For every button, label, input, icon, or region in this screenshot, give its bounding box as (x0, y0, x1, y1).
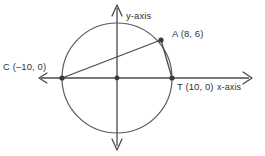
x-axis-label: x-axis (217, 83, 241, 92)
point-a (158, 37, 163, 42)
point-a-label: A (8, 6) (172, 29, 203, 39)
y-axis-label: y-axis (126, 11, 151, 21)
point-origin (115, 76, 120, 81)
point-t-label: T (10, 0) (177, 82, 214, 92)
point-c (59, 75, 64, 80)
figure-canvas (0, 0, 265, 156)
geometry-figure: y-axis A (8, 6) C (–10, 0) T (10, 0) x-a… (0, 0, 265, 156)
point-t (169, 75, 174, 80)
chord-c-to-a (62, 40, 161, 78)
point-c-label: C (–10, 0) (3, 62, 46, 72)
chord-a-to-t (161, 40, 172, 78)
